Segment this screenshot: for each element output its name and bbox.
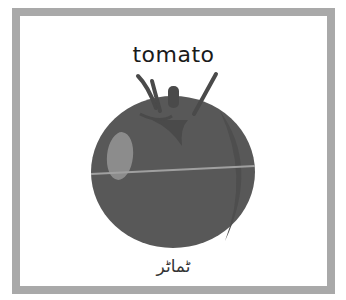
flashcard: tomato ٹماٹر [12,8,335,294]
card-caption-urdu: ٹماٹر [20,256,327,276]
tomato-icon [20,16,327,286]
